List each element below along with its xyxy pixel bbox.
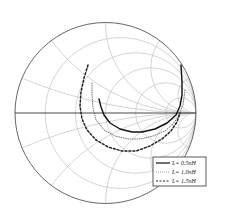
curves: [80, 65, 185, 151]
legend-label-2: L= 1.0nH: [171, 169, 196, 175]
reactance-arc: [106, 0, 225, 113]
legend: L= 0.5nH L= 1.0nH L= 1.5nH: [153, 157, 206, 186]
smith-chart: L= 0.5nH L= 1.0nH L= 1.5nH: [0, 0, 224, 219]
legend-label-3: L= 1.5nH: [171, 178, 196, 184]
legend-label-1: L= 0.5nH: [171, 160, 196, 166]
